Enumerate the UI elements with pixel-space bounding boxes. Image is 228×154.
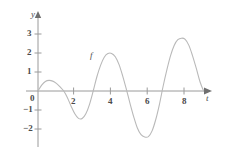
y-tick-label-0: 0 (30, 94, 35, 103)
x-axis-label: t (206, 94, 209, 103)
y-tick-label-2: 2 (27, 48, 32, 57)
function-curve-f (38, 38, 204, 137)
plot-canvas (0, 0, 228, 154)
y-axis-label: y (31, 10, 35, 19)
y-tick-label-1: 1 (27, 67, 32, 76)
y-tick-label-minus-1: −1 (23, 105, 33, 114)
x-tick-label-6: 6 (145, 97, 150, 106)
y-tick-label-3: 3 (27, 29, 32, 38)
x-tick-label-4: 4 (108, 97, 113, 106)
x-tick-label-8: 8 (182, 97, 187, 106)
x-tick-label-2: 2 (71, 97, 76, 106)
y-axis (35, 11, 41, 147)
y-tick-label-minus-2: −2 (23, 124, 33, 133)
curve-label-f: f (90, 51, 93, 60)
function-graph-figure: y t f 3 2 1 0 −1 −2 2 4 6 8 (0, 0, 228, 154)
